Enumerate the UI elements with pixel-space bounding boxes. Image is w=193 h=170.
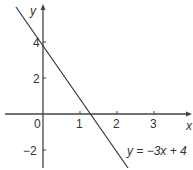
y-tick-label-2: 2 <box>33 72 40 86</box>
x-tick-label-3: 3 <box>150 117 157 131</box>
y-axis-arrow-icon <box>41 4 46 10</box>
x-tick-label-0: 0 <box>34 117 41 131</box>
x-axis-label: x <box>185 119 193 133</box>
x-tick-label-2: 2 <box>113 117 120 131</box>
y-axis-label: y <box>29 4 37 18</box>
equation-annotation: y = −3x + 4 <box>126 144 187 158</box>
y-tick-label-neg2: −2 <box>23 144 37 158</box>
x-tick-label-1: 1 <box>76 117 83 131</box>
x-axis-arrow-icon <box>186 112 192 117</box>
y-tick-label-4: 4 <box>33 36 40 50</box>
line-graph: y x 4 2 −2 0 1 2 3 y = −3x + 4 <box>0 0 193 170</box>
graph-canvas: y x 4 2 −2 0 1 2 3 y = −3x + 4 <box>0 0 193 170</box>
